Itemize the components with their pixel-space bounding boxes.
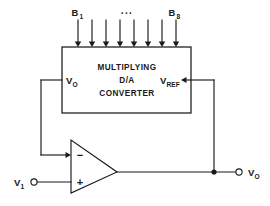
circuit-svg: B 1 ... B 8 MULTIPLYING D/A CONVERTER V …	[0, 0, 270, 206]
digital-input-arrow-5	[131, 20, 137, 47]
block-label-line2: D/A	[119, 76, 134, 85]
circuit-diagram: B 1 ... B 8 MULTIPLYING D/A CONVERTER V …	[0, 0, 270, 206]
digital-input-arrow-4	[117, 20, 123, 47]
bit-label-b1-subscript: 1	[80, 13, 84, 20]
input-terminal-v1: V 1	[14, 177, 71, 190]
input-terminal-circle	[31, 179, 37, 185]
digital-input-labels: B 1 ... B 8	[72, 5, 181, 20]
digital-input-arrow-6	[145, 20, 151, 47]
inverting-input-sign: −	[77, 149, 83, 161]
noninverting-input-sign: +	[77, 176, 83, 188]
digital-input-arrow-3	[103, 20, 109, 47]
digital-input-arrows	[75, 20, 179, 47]
bit-label-b1: B	[72, 7, 79, 18]
feedback-left-arrowhead	[66, 152, 72, 158]
input-terminal-subscript: 1	[21, 183, 25, 190]
bit-label-b8: B	[169, 7, 176, 18]
digital-input-arrow-8	[173, 20, 179, 47]
block-right-port-subscript: REF	[167, 81, 180, 88]
output-terminal-subscript: O	[255, 173, 260, 180]
output-junction-dot	[211, 169, 216, 174]
output-terminal-circle	[236, 169, 242, 175]
bit-label-b8-subscript: 8	[177, 13, 181, 20]
output-terminal-vo: V O	[117, 167, 260, 180]
digital-input-arrow-1	[75, 20, 81, 47]
block-label-line3: CONVERTER	[99, 89, 154, 98]
digital-input-arrow-7	[159, 20, 165, 47]
block-left-port-subscript: O	[73, 81, 78, 88]
block-label-line1: MULTIPLYING	[97, 63, 156, 72]
digital-input-arrow-2	[89, 20, 95, 47]
operational-amplifier: − +	[71, 140, 117, 193]
ellipsis-label: ...	[121, 5, 134, 16]
